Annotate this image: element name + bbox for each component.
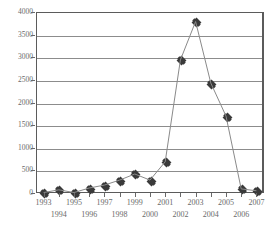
x-axis-tick-mark: [196, 193, 197, 197]
x-axis-tick-mark: [180, 193, 181, 197]
y-axis-tick-label: 1000: [0, 144, 33, 152]
x-axis-tick-mark: [89, 193, 90, 197]
x-axis-tick-label: 2006: [221, 210, 261, 220]
y-axis-tick-label: 4000: [0, 8, 33, 16]
y-axis-tick-label: 2500: [0, 76, 33, 84]
y-axis-tick-mark: [31, 35, 35, 36]
y-axis-tick-label: 500: [0, 166, 33, 174]
x-axis-tick-labels: 1993199419951996199719981999200020012002…: [0, 198, 279, 228]
series-line: [36, 12, 264, 193]
x-axis-tick-mark: [226, 193, 227, 197]
x-axis-tick-mark: [256, 193, 257, 197]
x-axis-tick-mark: [211, 193, 212, 197]
y-axis-tick-mark: [31, 193, 35, 194]
x-axis-tick-mark: [241, 193, 242, 197]
x-axis-tick-mark: [59, 193, 60, 197]
y-axis-tick-mark: [31, 170, 35, 171]
x-axis-tick-mark: [165, 193, 166, 197]
y-axis-tick-mark: [31, 103, 35, 104]
y-axis-tick-mark: [31, 12, 35, 13]
y-axis-tick-mark: [31, 148, 35, 149]
x-axis-tick-mark: [44, 193, 45, 197]
line-chart: 05001000150020002500300035004000 1993199…: [0, 0, 279, 232]
y-axis-tick-labels: 05001000150020002500300035004000: [0, 12, 34, 193]
x-axis-tick-mark: [120, 193, 121, 197]
y-axis-tick-label: 0: [0, 189, 33, 197]
x-axis-tick-mark: [135, 193, 136, 197]
y-axis-tick-mark: [31, 57, 35, 58]
y-axis-tick-label: 3500: [0, 31, 33, 39]
x-axis-tick-mark: [150, 193, 151, 197]
y-axis-tick-mark: [31, 80, 35, 81]
y-axis-tick-label: 3000: [0, 53, 33, 61]
y-axis-tick-mark: [31, 125, 35, 126]
y-axis-tick-label: 1500: [0, 121, 33, 129]
x-axis-tick-mark: [104, 193, 105, 197]
x-axis-tick-mark: [74, 193, 75, 197]
x-axis-tick-label: 2007: [236, 198, 276, 208]
y-axis-tick-label: 2000: [0, 99, 33, 107]
